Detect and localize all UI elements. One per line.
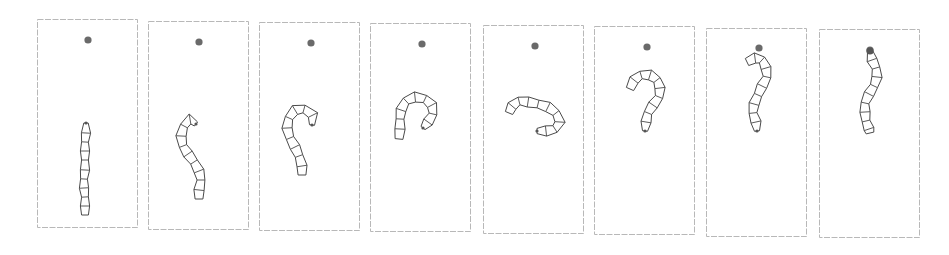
frame-4 [371,24,471,232]
worm-head-icon [535,129,538,132]
target-dot-icon [755,44,762,51]
worm-head-icon [421,126,424,129]
frame-1 [38,20,138,228]
target-dot-icon [643,43,650,50]
frame-8 [820,30,920,238]
target-dot-icon [307,39,314,46]
worm-segment-divider [395,129,405,130]
worm-head-icon [755,129,758,132]
worm-head-icon [84,121,87,124]
target-dot-icon [195,38,202,45]
worm-segment-divider [282,128,292,129]
worm-head-icon [310,123,313,126]
worm-segment-divider [555,122,565,123]
frame-border [371,24,471,232]
frame-2 [149,22,249,230]
target-dot-icon [84,36,91,43]
worm-segment-divider [176,136,186,137]
worm-frame-sequence [0,0,949,255]
target-dot-icon [531,42,538,49]
frame-3 [260,23,360,231]
worm-body [79,121,90,215]
worm-segment-divider [860,112,870,113]
worm-head-icon [194,122,197,125]
frame-6 [595,27,695,235]
worm-segment-divider [79,188,88,189]
worm-outline [79,123,90,215]
worm-head-icon [866,47,873,54]
target-dot-icon [418,40,425,47]
frame-7 [707,29,807,237]
worm-head-icon [643,129,646,132]
frame-border [484,26,584,234]
frame-5 [484,26,584,234]
frame-border [260,23,360,231]
